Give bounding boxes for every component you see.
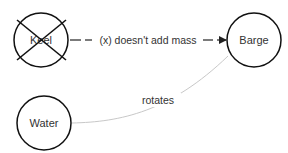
diagram-canvas: rotates (x) doesn't add mass Keel Barge … [0, 0, 288, 153]
node-water[interactable]: Water [17, 96, 71, 150]
edge-water-barge[interactable]: rotates [72, 56, 228, 123]
node-label-water: Water [30, 117, 59, 129]
edge-keel-barge[interactable]: (x) doesn't add mass [70, 34, 226, 46]
node-keel[interactable]: Keel [14, 13, 68, 67]
node-barge[interactable]: Barge [227, 13, 281, 67]
edge-label-rotates: rotates [142, 94, 174, 106]
node-label-barge: Barge [239, 34, 268, 46]
edge-label-doesnt-add-mass: (x) doesn't add mass [99, 34, 196, 46]
edge-curve-line [72, 56, 228, 123]
